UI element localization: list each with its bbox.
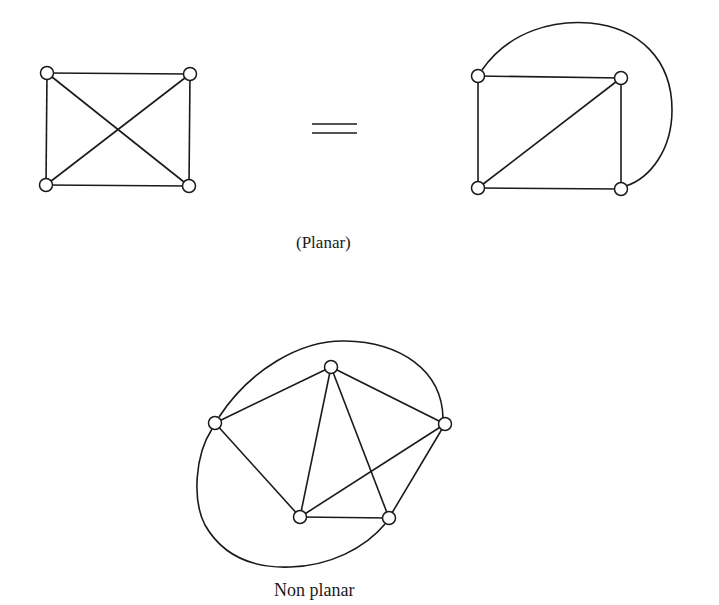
edge	[300, 367, 331, 517]
edge	[331, 367, 389, 518]
vertex	[615, 72, 628, 85]
edge	[300, 517, 389, 518]
vertex	[325, 361, 338, 374]
vertex	[209, 417, 222, 430]
curved-edge	[482, 23, 672, 186]
edge	[478, 78, 621, 188]
edge	[478, 76, 621, 78]
vertex	[183, 180, 196, 193]
vertex	[184, 68, 197, 81]
vertex	[615, 183, 628, 196]
edge	[46, 73, 47, 185]
edge	[215, 423, 300, 517]
graph-k4-planar	[472, 23, 673, 196]
graph-k4-crossing	[40, 67, 197, 193]
edge	[478, 188, 621, 189]
vertex	[472, 70, 485, 83]
graph-diagram	[0, 0, 719, 605]
edge	[215, 367, 331, 423]
vertex	[294, 511, 307, 524]
graph-k5-nonplanar	[197, 341, 452, 567]
vertex	[41, 67, 54, 80]
edge	[300, 424, 445, 517]
vertex	[472, 182, 485, 195]
vertex	[383, 512, 396, 525]
nonplanar-caption: Non planar	[274, 580, 354, 601]
edge	[46, 74, 190, 185]
equals-sign	[312, 124, 357, 133]
planar-caption: (Planar)	[296, 233, 351, 253]
vertex	[40, 179, 53, 192]
edge	[389, 424, 445, 518]
edge	[47, 73, 190, 74]
curved-edge-bottom	[197, 429, 385, 567]
edge	[189, 74, 190, 186]
edge	[46, 185, 189, 186]
vertex	[439, 418, 452, 431]
